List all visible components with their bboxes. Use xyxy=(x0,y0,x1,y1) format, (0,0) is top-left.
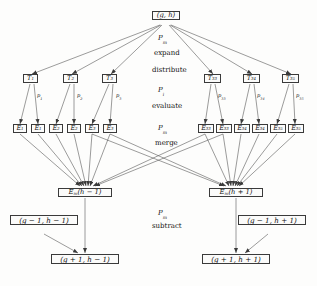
edge-label-subscript: 2 xyxy=(80,97,82,101)
node-t-left-1[interactable]: T1 xyxy=(23,74,38,83)
phase-symbol: P xyxy=(158,124,163,132)
node-subscript: 34 xyxy=(260,127,265,131)
node-t-right-1[interactable]: T33 xyxy=(204,74,221,83)
node-subscript: 33 xyxy=(212,77,217,81)
edge-label-p-left-2: p2 xyxy=(77,92,83,100)
phase-pm-merge: Pm xyxy=(158,124,167,133)
node-subscript: 3 xyxy=(111,127,114,131)
node-subscript: 2 xyxy=(75,127,78,131)
edge-label-p-left-1: p1 xyxy=(37,92,43,100)
edge-label-p-left-3: p3 xyxy=(116,92,122,100)
node-subscript: 3 xyxy=(110,77,113,81)
node-subscript: 1 xyxy=(31,77,34,81)
op-distribute: distribute xyxy=(152,66,187,74)
edge-label-subscript: 33 xyxy=(221,97,225,101)
node-t-left-2[interactable]: T2 xyxy=(63,74,78,83)
node-e-right-3[interactable]: E34 xyxy=(234,124,250,133)
node-e-left-6[interactable]: E3 xyxy=(103,124,117,133)
node-e-left-3[interactable]: E2 xyxy=(49,124,63,133)
node-t-right-3[interactable]: T35 xyxy=(282,74,299,83)
node-subscript: 35 xyxy=(296,127,301,131)
phase-pm-expand: Pm xyxy=(158,34,167,43)
node-subscript: 35 xyxy=(278,127,283,131)
node-e-right-5[interactable]: E35 xyxy=(270,124,286,133)
node-t-left-3[interactable]: T3 xyxy=(102,74,117,83)
node-argument: (h − 1) xyxy=(77,189,101,196)
node-subscript: 3 xyxy=(93,127,96,131)
op-merge: merge xyxy=(155,139,178,147)
node-subscript: 35 xyxy=(290,77,295,81)
node-subscript: 34 xyxy=(242,127,247,131)
diagram-canvas: (g, h) Pm expand distribute Pi evaluate … xyxy=(0,0,317,286)
phase-subscript: m xyxy=(163,130,167,135)
node-e-left-2[interactable]: E1 xyxy=(31,124,45,133)
node-subscript: 1 xyxy=(39,127,42,131)
edge-label-subscript: 34 xyxy=(260,97,264,101)
node-result-left[interactable]: (g + 1, h − 1) xyxy=(51,254,119,264)
edge-label-p-right-3: p35 xyxy=(296,92,304,100)
phase-symbol: P xyxy=(158,34,163,42)
node-subscript: 33 xyxy=(206,127,211,131)
node-operand-left[interactable]: (g − 1, h − 1) xyxy=(10,215,78,225)
node-e-right-4[interactable]: E34 xyxy=(252,124,268,133)
node-subscript: 1 xyxy=(21,127,24,131)
node-subscript: 34 xyxy=(251,77,256,81)
node-argument: (h + 1) xyxy=(228,189,252,196)
node-result-right[interactable]: (g + 1, h + 1) xyxy=(202,254,270,264)
node-e-right-6[interactable]: E35 xyxy=(288,124,304,133)
phase-subscript: i xyxy=(163,92,164,97)
node-e-right-1[interactable]: E33 xyxy=(198,124,214,133)
node-operand-right[interactable]: (g − 1, h + 1) xyxy=(238,215,306,225)
phase-subscript: m xyxy=(163,215,167,220)
op-expand: expand xyxy=(154,49,180,57)
edge-label-subscript: 1 xyxy=(40,97,42,101)
node-e-left-4[interactable]: E2 xyxy=(67,124,81,133)
node-merge-right[interactable]: Em(h + 1) xyxy=(209,188,263,197)
op-evaluate: evaluate xyxy=(152,102,182,110)
node-subscript: m xyxy=(73,192,77,196)
phase-pm-subtract: Pm xyxy=(158,209,167,218)
node-subscript: 2 xyxy=(57,127,60,131)
edge-label-subscript: 3 xyxy=(119,97,121,101)
op-subtract: subtract xyxy=(152,222,182,230)
edge-label-p-right-1: p33 xyxy=(218,92,226,100)
node-e-left-5[interactable]: E3 xyxy=(85,124,99,133)
phase-symbol: P xyxy=(158,209,163,217)
node-e-left-1[interactable]: E1 xyxy=(13,124,27,133)
edge-label-p-right-2: p34 xyxy=(257,92,265,100)
node-subscript: 2 xyxy=(71,77,74,81)
node-e-right-2[interactable]: E33 xyxy=(216,124,232,133)
node-t-right-2[interactable]: T34 xyxy=(243,74,260,83)
phase-symbol: P xyxy=(158,86,163,94)
node-root[interactable]: (g, h) xyxy=(152,11,180,20)
phase-subscript: m xyxy=(163,40,167,45)
node-subscript: m xyxy=(224,192,228,196)
node-merge-left[interactable]: Em(h − 1) xyxy=(58,188,112,197)
node-subscript: 33 xyxy=(224,127,229,131)
edge-label-subscript: 35 xyxy=(299,97,303,101)
phase-pi-evaluate: Pi xyxy=(158,86,164,95)
